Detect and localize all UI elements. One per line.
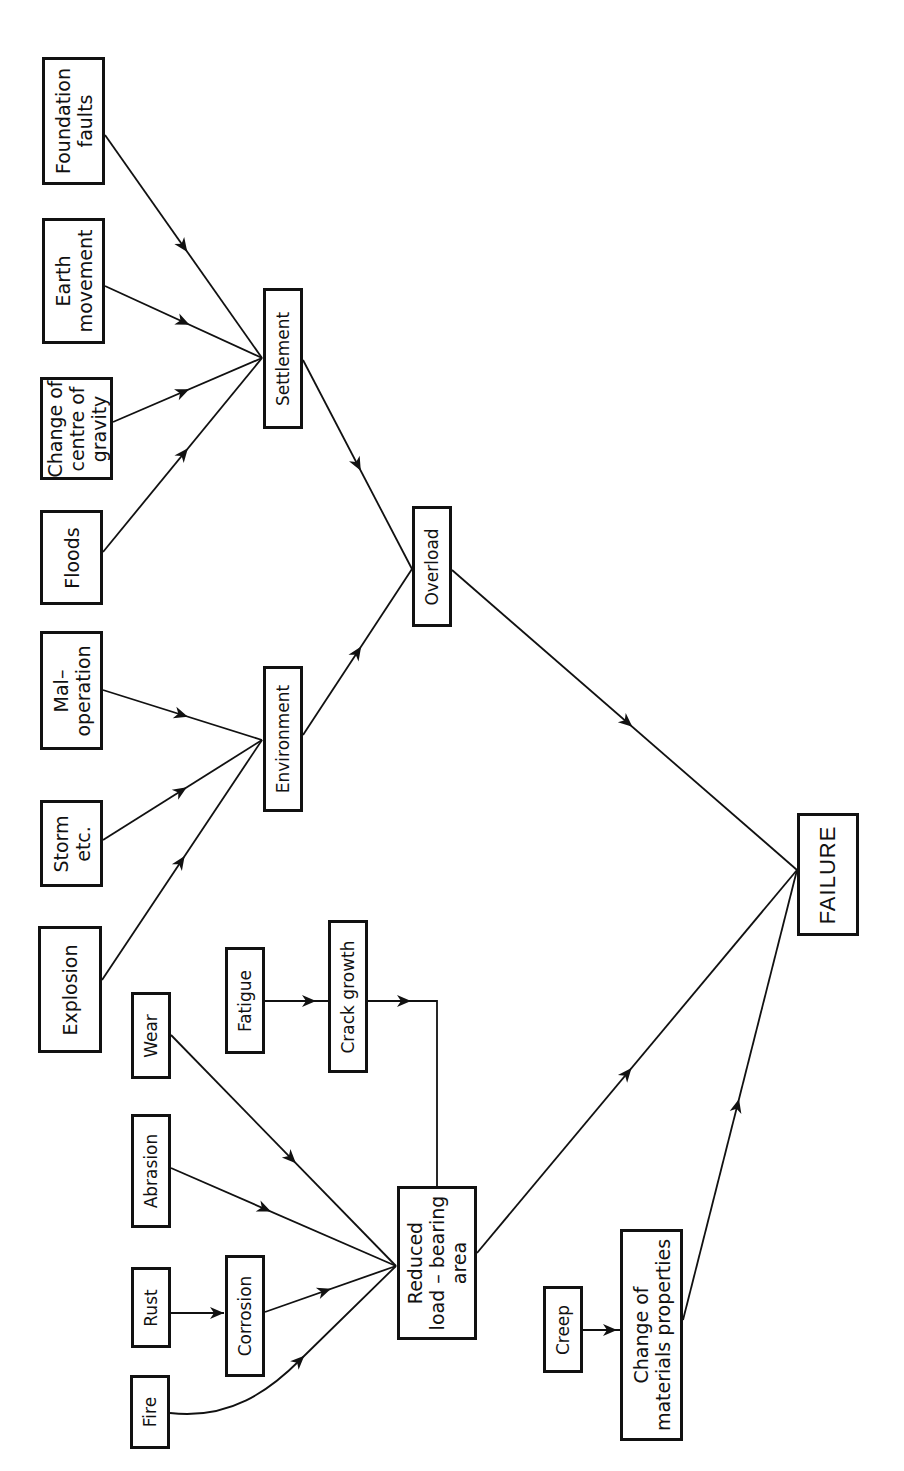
node-settlement: Settlement (263, 288, 303, 429)
edge-fire-to-reduced-load-bearing-area (170, 1266, 396, 1414)
node-label: Reduced load – bearing area (404, 1196, 470, 1331)
arrowhead-icon (172, 853, 190, 871)
arrowhead-icon (316, 1283, 333, 1299)
edge-crack-growth-to-reduced-load-bearing-area (368, 995, 437, 1186)
edge-floods-to-settlement (103, 358, 262, 552)
node-environment: Environment (263, 666, 303, 812)
node-change-materials-properties: Change of materials properties (620, 1229, 683, 1441)
arrowhead-icon (256, 1200, 274, 1217)
node-label: Change of centre of gravity (44, 380, 110, 477)
edge-fatigue-to-crack-growth (265, 995, 328, 1007)
arrowhead-icon (173, 707, 190, 723)
node-failure: FAILURE (797, 813, 859, 936)
arrowhead-icon (172, 782, 190, 800)
node-label: Crack growth (338, 940, 358, 1053)
edge-explosion-to-environment (102, 740, 262, 980)
node-label: Environment (273, 685, 293, 794)
node-storm: Storm etc. (40, 800, 103, 887)
edge-storm-to-environment (103, 740, 262, 840)
node-label: Fire (140, 1397, 160, 1427)
edge-mal-operation-to-environment (103, 690, 262, 740)
node-label: Foundation faults (52, 68, 96, 174)
node-label: Overload (422, 528, 442, 605)
node-earth-movement: Earth movement (42, 218, 105, 344)
node-label: Abrasion (141, 1134, 161, 1209)
node-label: Settlement (273, 311, 293, 405)
node-rust: Rust (131, 1267, 171, 1348)
node-creep: Creep (543, 1286, 583, 1373)
connector-line (368, 1001, 437, 1186)
node-label: Earth movement (52, 230, 96, 333)
edge-earth-movement-to-settlement (105, 286, 262, 358)
node-label: Wear (141, 1014, 161, 1058)
node-label: Rust (141, 1289, 161, 1326)
node-floods: Floods (40, 510, 103, 605)
arrowhead-icon (174, 384, 192, 401)
connector-line (171, 1168, 396, 1266)
edge-rust-to-corrosion (171, 1307, 224, 1319)
edge-change-centre-gravity-to-settlement (113, 358, 262, 422)
node-label: Floods (61, 527, 83, 588)
node-fatigue: Fatigue (225, 947, 265, 1054)
node-corrosion: Corrosion (225, 1255, 265, 1377)
node-label: Fatigue (235, 969, 255, 1031)
arrowhead-icon (730, 1098, 745, 1115)
edge-corrosion-to-reduced-load-bearing-area (265, 1266, 396, 1312)
connector-line (452, 570, 797, 870)
node-label: Corrosion (235, 1276, 255, 1357)
edge-environment-to-overload (303, 569, 412, 735)
node-reduced-load-bearing-area: Reduced load – bearing area (397, 1186, 477, 1340)
node-label: Mal– operation (50, 645, 94, 736)
arrowhead-icon (348, 643, 366, 661)
node-abrasion: Abrasion (131, 1114, 171, 1228)
node-crack-growth: Crack growth (328, 920, 368, 1073)
edge-settlement-to-overload (303, 360, 412, 569)
node-foundation-faults: Foundation faults (42, 57, 105, 185)
arrowhead-icon (174, 313, 192, 330)
edge-abrasion-to-reduced-load-bearing-area (171, 1168, 396, 1266)
failure-cause-diagram: Foundation faultsEarth movementChange of… (0, 0, 904, 1471)
edge-creep-to-change-materials-properties (583, 1324, 620, 1336)
edge-overload-to-failure (452, 570, 797, 870)
node-label: Change of materials properties (630, 1239, 674, 1431)
node-change-centre-gravity: Change of centre of gravity (40, 377, 113, 480)
node-label: Explosion (59, 944, 81, 1035)
node-fire: Fire (130, 1375, 170, 1449)
node-overload: Overload (412, 506, 452, 627)
connector-line (170, 1266, 396, 1414)
node-label: Storm etc. (50, 815, 94, 872)
node-label: Creep (553, 1304, 573, 1354)
node-label: FAILURE (817, 825, 839, 924)
node-mal-operation: Mal– operation (40, 631, 103, 750)
node-explosion: Explosion (38, 926, 102, 1053)
arrowhead-icon (174, 237, 192, 255)
node-wear: Wear (131, 992, 171, 1079)
arrowhead-icon (349, 456, 366, 474)
